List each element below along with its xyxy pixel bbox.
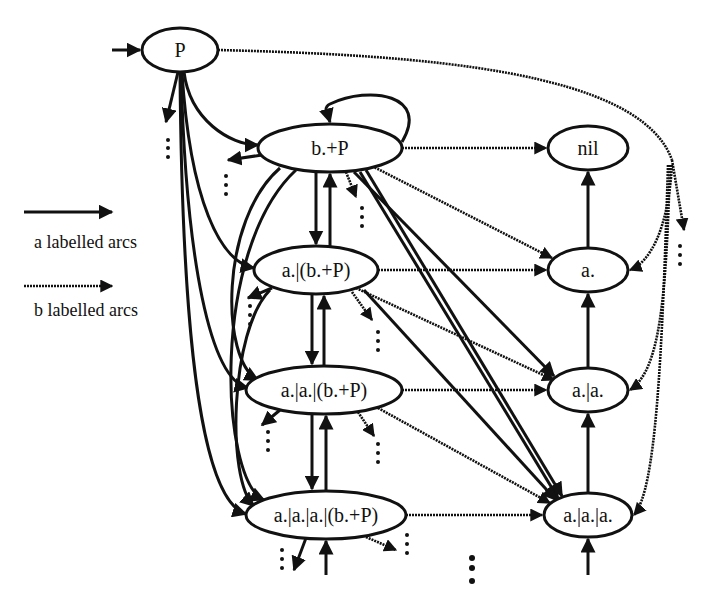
dots-below-bP <box>360 206 364 228</box>
node-bP-label: b.+P <box>311 137 348 159</box>
dots-left-aabP <box>266 430 270 452</box>
dots-right-edge <box>678 244 682 266</box>
arc-a-P-bP <box>184 72 258 145</box>
dots-left-bP <box>224 174 228 196</box>
arc-a-bP-aaabP <box>231 170 296 500</box>
node-aa: a.|a. <box>548 368 628 412</box>
legend-b-label: b labelled arcs <box>34 300 138 321</box>
node-bP: b.+P <box>258 124 402 172</box>
arc-b-bP-down <box>346 172 356 197</box>
dots-bottom-center <box>469 555 475 584</box>
arc-b-aabP-aaa <box>378 408 550 503</box>
dots-below-P <box>166 138 170 159</box>
arc-b-abP-aa <box>356 288 554 380</box>
arc-a-P-down-left <box>166 72 178 122</box>
arc-a-aabP-left <box>262 410 280 425</box>
node-abP: a.|(b.+P) <box>254 246 378 294</box>
node-aaa: a.|a.|a. <box>544 493 632 537</box>
dots-left-abP <box>248 304 252 326</box>
node-a: a. <box>548 248 628 292</box>
dots-right-aaabP <box>405 533 409 555</box>
node-aa-label: a.|a. <box>572 379 604 402</box>
node-aabP-label: a.|a.|(b.+P) <box>281 379 367 402</box>
arc-a-bP-left <box>228 155 262 160</box>
arc-b-bP-a <box>372 166 552 258</box>
node-aaabP-label: a.|a.|a.|(b.+P) <box>274 504 378 527</box>
node-abP-label: a.|(b.+P) <box>282 259 351 282</box>
node-P: P <box>142 28 218 72</box>
node-aaabP: a.|a.|a.|(b.+P) <box>246 491 406 539</box>
node-aabP: a.|a.|(b.+P) <box>246 366 402 414</box>
arc-b-aaabP-down <box>366 537 396 550</box>
legend-a-label: a labelled arcs <box>34 232 137 253</box>
arc-b-right-to-aaa <box>634 165 668 515</box>
node-P-label: P <box>174 39 185 61</box>
node-a-label: a. <box>581 259 595 281</box>
arc-a-bP-aaa-1 <box>360 172 558 498</box>
dots-below-aabP <box>376 442 380 464</box>
arc-a-aaabP-down-left <box>294 538 306 570</box>
dots-left-aaabP <box>280 548 284 570</box>
arc-b-aabP-down <box>358 412 374 436</box>
arc-b-right-down-dots <box>672 160 684 230</box>
dots-below-abP <box>376 330 380 352</box>
node-nil: nil <box>548 126 628 170</box>
arc-a-bP-aaa-2 <box>366 170 562 496</box>
node-nil-label: nil <box>577 137 599 159</box>
b-arcs <box>218 50 684 550</box>
node-aaa-label: a.|a.|a. <box>563 504 613 527</box>
